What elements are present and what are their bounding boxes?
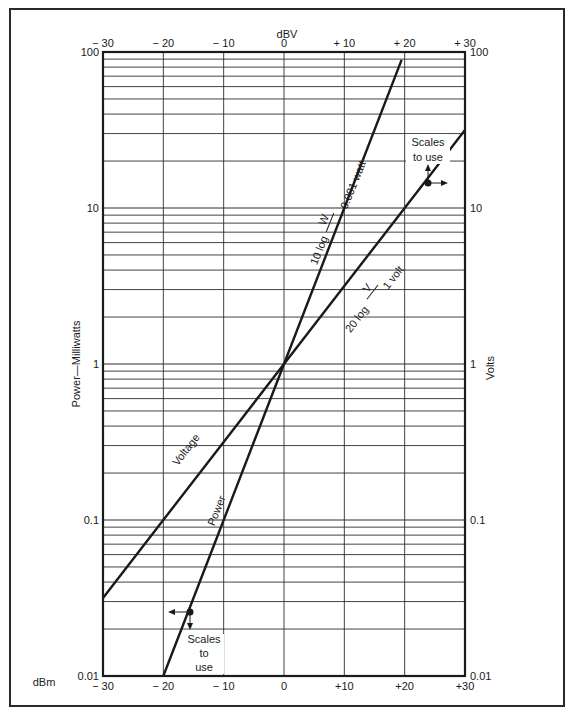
right-tick-label: 0.1 (470, 514, 485, 526)
bottom-axis-ticks: − 30− 20− 100+10+20+30 (92, 680, 474, 692)
svg-text:Scales: Scales (187, 633, 221, 645)
svg-text:10 log: 10 log (308, 234, 330, 266)
bottom-axis-title: dBm (33, 676, 56, 688)
left-tick-label: 1 (93, 358, 99, 370)
top-tick-label: + 20 (394, 37, 416, 49)
right-axis-title: Volts (484, 356, 496, 380)
svg-text:use: use (195, 661, 213, 673)
scales-to-use-annotation-voltage: Scales to use (406, 134, 450, 187)
bottom-tick-label: +20 (395, 680, 414, 692)
left-axis-title: Power—Milliwatts (70, 320, 82, 407)
top-tick-label: − 20 (152, 37, 174, 49)
voltage-line-label: Voltage (170, 431, 202, 467)
left-tick-label: 100 (81, 46, 99, 58)
left-tick-label: 0.1 (84, 514, 99, 526)
right-tick-label: 10 (470, 202, 482, 214)
bottom-tick-label: +10 (335, 680, 354, 692)
top-tick-label: − 10 (213, 37, 235, 49)
left-tick-label: 0.01 (78, 670, 99, 682)
left-tick-label: 10 (87, 202, 99, 214)
svg-text:to: to (199, 647, 208, 659)
bottom-tick-label: − 10 (213, 680, 235, 692)
right-tick-label: 0.01 (470, 670, 491, 682)
top-axis-ticks: − 30− 20− 100+ 10+ 20+ 30 (92, 37, 476, 49)
top-tick-label: 0 (281, 37, 287, 49)
right-tick-label: 100 (470, 46, 488, 58)
bottom-tick-label: 0 (281, 680, 287, 692)
arrow-left-icon (168, 609, 175, 615)
svg-text:1 volt: 1 volt (380, 263, 406, 291)
svg-text:20 log: 20 log (343, 303, 371, 334)
right-tick-label: 1 (470, 358, 476, 370)
power-line-label: Power (205, 493, 228, 527)
svg-text:0.001 watt: 0.001 watt (338, 159, 368, 211)
arrow-up-icon (425, 164, 431, 171)
power-formula: 10 log W 0.001 watt (301, 154, 368, 269)
svg-text:to use: to use (413, 151, 443, 163)
chart: dBV − 30− 20− 100+ 10+ 20+ 30 − 30− 20− … (0, 0, 574, 717)
arrow-right-icon (441, 180, 448, 186)
top-tick-label: + 10 (333, 37, 355, 49)
svg-text:Scales: Scales (411, 136, 445, 148)
top-axis-title: dBV (277, 28, 298, 40)
bottom-tick-label: − 20 (152, 680, 174, 692)
